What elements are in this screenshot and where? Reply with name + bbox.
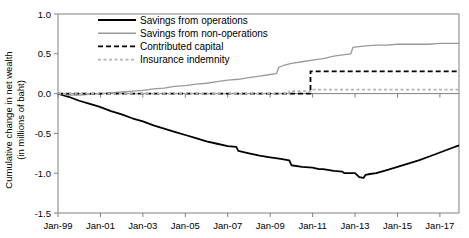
y-axis-ticks: 1.00.50.0-0.5-1.0-1.5 <box>35 9 58 219</box>
x-tick-label: Jan-01 <box>86 220 115 231</box>
y-tick-label: -0.5 <box>35 128 51 139</box>
series-line <box>58 94 459 178</box>
x-tick-label: Jan-09 <box>256 220 285 231</box>
x-tick-label: Jan-07 <box>213 220 242 231</box>
series-line <box>58 71 459 93</box>
x-tick-label: Jan-11 <box>298 220 326 231</box>
legend-label: Insurance indemnity <box>140 54 230 65</box>
y-axis-title: Cumulative change in net wealth (in mill… <box>3 51 26 188</box>
x-tick-label: Jan-15 <box>383 220 412 231</box>
y-tick-label: 0.5 <box>38 48 51 59</box>
x-tick-label: Jan-03 <box>128 220 157 231</box>
legend-label: Contributed capital <box>140 41 223 52</box>
chart-legend: Savings from operationsSavings from non-… <box>98 15 268 66</box>
series-paths <box>58 43 459 178</box>
x-axis-ticks: Jan-99Jan-01Jan-03Jan-05Jan-07Jan-09Jan-… <box>43 94 454 231</box>
y-tick-label: -1.0 <box>35 168 51 179</box>
y-axis-title-line1: Cumulative change in net wealth <box>3 51 14 188</box>
x-tick-label: Jan-17 <box>425 220 454 231</box>
legend-label: Savings from non-operations <box>140 28 268 39</box>
line-chart: Cumulative change in net wealth (in mill… <box>0 0 469 238</box>
chart-container: Cumulative change in net wealth (in mill… <box>0 0 469 238</box>
series-line <box>58 43 459 95</box>
y-tick-label: 0.0 <box>38 88 51 99</box>
y-tick-label: -1.5 <box>35 208 51 219</box>
x-tick-label: Jan-99 <box>43 220 72 231</box>
legend-label: Savings from operations <box>140 15 248 26</box>
x-tick-label: Jan-05 <box>171 220 200 231</box>
y-tick-label: 1.0 <box>38 9 51 20</box>
x-tick-label: Jan-13 <box>341 220 370 231</box>
y-axis-title-line2: (in millions of baht) <box>15 80 26 160</box>
